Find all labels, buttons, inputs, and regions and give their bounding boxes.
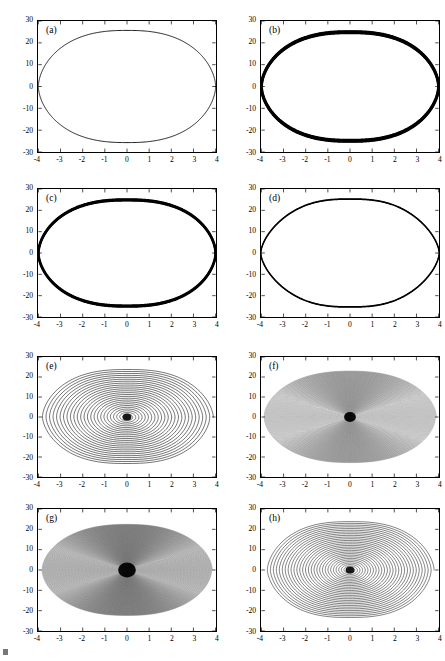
x-tick-label-f-4: 0	[340, 481, 360, 489]
trajectory-b	[261, 31, 439, 142]
x-tick-label-g-5: 1	[140, 635, 160, 643]
plot-canvas-c	[38, 189, 216, 317]
x-tick-label-g-8: 4	[207, 635, 227, 643]
y-tick-label-d-2: 10	[234, 227, 256, 235]
x-tick-label-c-5: 1	[140, 321, 160, 329]
x-tick-label-e-3: -1	[95, 481, 115, 489]
trajectory-h	[267, 522, 434, 618]
x-tick-label-g-1: -3	[50, 635, 70, 643]
x-tick-label-a-1: -3	[50, 156, 70, 164]
x-tick-label-b-7: 3	[408, 156, 428, 164]
x-tick-label-e-4: 0	[117, 481, 137, 489]
x-tick-label-d-1: -3	[273, 321, 293, 329]
x-tick-label-g-4: 0	[117, 635, 137, 643]
y-tick-label-e-2: 10	[11, 393, 33, 401]
tick-marks-a	[38, 21, 215, 152]
x-tick-label-e-8: 4	[207, 481, 227, 489]
x-tick-label-b-3: -1	[318, 156, 338, 164]
x-tick-label-c-6: 2	[162, 321, 182, 329]
x-tick-label-b-4: 0	[340, 156, 360, 164]
y-tick-label-a-4: -10	[11, 105, 33, 113]
y-tick-label-h-3: 0	[234, 566, 256, 574]
x-tick-label-b-5: 1	[363, 156, 383, 164]
x-tick-label-d-0: -4	[250, 321, 270, 329]
x-tick-label-h-6: 2	[385, 635, 405, 643]
x-tick-label-b-1: -3	[273, 156, 293, 164]
plot-frame-b	[260, 20, 440, 153]
x-tick-label-b-8: 4	[430, 156, 445, 164]
x-tick-label-d-8: 4	[430, 321, 445, 329]
x-tick-label-e-2: -2	[72, 481, 92, 489]
x-tick-label-e-7: 3	[185, 481, 205, 489]
plot-canvas-b	[261, 21, 439, 152]
y-tick-label-b-5: -20	[234, 127, 256, 135]
trajectory-f	[264, 371, 436, 462]
y-tick-label-g-4: -10	[11, 587, 33, 595]
y-tick-label-g-5: -20	[11, 607, 33, 615]
trajectory-g	[42, 524, 212, 615]
x-tick-label-f-7: 3	[408, 481, 428, 489]
x-tick-label-a-4: 0	[117, 156, 137, 164]
y-tick-label-h-1: 20	[234, 525, 256, 533]
tick-marks-b	[261, 21, 438, 152]
x-tick-label-a-5: 1	[140, 156, 160, 164]
y-tick-label-e-4: -10	[11, 433, 33, 441]
y-tick-label-c-4: -10	[11, 271, 33, 279]
plot-frame-e	[37, 356, 217, 478]
y-tick-label-d-0: 30	[234, 184, 256, 192]
focus-core-e	[123, 413, 132, 420]
trajectory-d	[261, 199, 439, 307]
trajectory-a	[38, 30, 215, 142]
panel-label-c: (c)	[46, 194, 57, 204]
x-tick-label-d-2: -2	[295, 321, 315, 329]
plot-frame-c	[37, 188, 217, 318]
focus-core-g	[118, 563, 136, 578]
scan-artifact	[3, 649, 8, 655]
focus-core-f	[344, 412, 356, 422]
x-tick-label-b-2: -2	[295, 156, 315, 164]
y-tick-label-a-3: 0	[11, 83, 33, 91]
y-tick-label-f-2: 10	[234, 393, 256, 401]
x-tick-label-a-2: -2	[72, 156, 92, 164]
x-tick-label-e-6: 2	[162, 481, 182, 489]
plot-canvas-a	[38, 21, 216, 152]
x-tick-label-d-4: 0	[340, 321, 360, 329]
y-tick-label-c-5: -20	[11, 292, 33, 300]
y-tick-label-f-0: 30	[234, 352, 256, 360]
panel-label-f: (f)	[269, 362, 279, 372]
y-tick-label-e-1: 20	[11, 372, 33, 380]
trajectory-e	[42, 370, 213, 464]
y-tick-label-f-4: -10	[234, 433, 256, 441]
y-tick-label-g-1: 20	[11, 525, 33, 533]
x-tick-label-f-2: -2	[295, 481, 315, 489]
y-tick-label-h-2: 10	[234, 545, 256, 553]
x-tick-label-c-7: 3	[185, 321, 205, 329]
x-tick-label-f-5: 1	[363, 481, 383, 489]
plot-frame-g	[37, 508, 217, 632]
plot-frame-a	[37, 20, 217, 153]
plot-canvas-h	[261, 509, 439, 631]
y-tick-label-a-5: -20	[11, 127, 33, 135]
y-tick-label-f-3: 0	[234, 413, 256, 421]
y-tick-label-d-1: 20	[234, 206, 256, 214]
y-tick-label-b-1: 20	[234, 38, 256, 46]
panel-label-b: (b)	[269, 26, 280, 36]
y-tick-label-h-5: -20	[234, 607, 256, 615]
plot-canvas-d	[261, 189, 439, 317]
plot-frame-h	[260, 508, 440, 632]
x-tick-label-b-6: 2	[385, 156, 405, 164]
x-tick-label-c-3: -1	[95, 321, 115, 329]
y-tick-label-a-0: 30	[11, 16, 33, 24]
x-tick-label-h-4: 0	[340, 635, 360, 643]
y-tick-label-c-1: 20	[11, 206, 33, 214]
y-tick-label-f-1: 20	[234, 372, 256, 380]
panel-label-h: (h)	[269, 514, 280, 524]
y-tick-label-d-5: -20	[234, 292, 256, 300]
tick-marks-c	[38, 189, 215, 317]
y-tick-label-e-3: 0	[11, 413, 33, 421]
x-tick-label-h-3: -1	[318, 635, 338, 643]
x-tick-label-a-0: -4	[27, 156, 47, 164]
y-tick-label-a-1: 20	[11, 38, 33, 46]
y-tick-label-d-4: -10	[234, 271, 256, 279]
y-tick-label-e-5: -20	[11, 454, 33, 462]
